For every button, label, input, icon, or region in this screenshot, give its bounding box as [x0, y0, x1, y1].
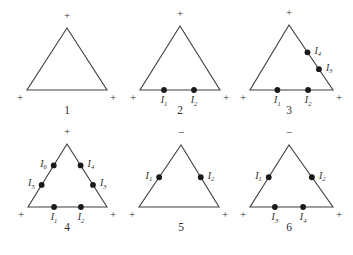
electrode-dot	[274, 87, 280, 93]
triangle-outline	[27, 28, 107, 90]
electrode-label: I3	[99, 177, 107, 190]
vertex-sign-top: +	[177, 7, 183, 19]
electrode-dot	[39, 182, 45, 188]
electrode-label: I6	[39, 158, 47, 171]
electrode-label: I2	[190, 94, 198, 107]
triangle-outline	[140, 26, 220, 90]
triangle-number: 5	[178, 221, 184, 233]
electrode-label: I1	[160, 94, 168, 107]
electrode-label: I3	[325, 62, 333, 75]
vertex-sign-top: +	[64, 9, 70, 21]
electrode-label: I2	[304, 94, 312, 107]
vertex-sign-bottom-left: +	[17, 91, 23, 103]
electrode-label: I4	[299, 211, 307, 224]
electrode-dot	[309, 174, 315, 180]
triangle-2: +++I1I22	[130, 7, 229, 116]
electrode-dot	[300, 204, 306, 210]
electrode-dot	[305, 87, 311, 93]
triangle-number: 3	[286, 104, 292, 116]
electrode-dot	[51, 163, 57, 169]
triangle-number: 4	[64, 221, 70, 233]
electrode-dot	[316, 66, 322, 72]
electrode-dot	[272, 204, 278, 210]
triangle-outline	[28, 144, 107, 207]
triangle-3: +++I1I2I4I33	[240, 6, 342, 116]
triangle-number: 6	[286, 221, 292, 233]
electrode-dot	[198, 174, 204, 180]
electrode-dot	[78, 163, 84, 169]
triangle-4: +++I1I2I4I3I6I54	[18, 125, 116, 233]
electrode-label: I4	[87, 158, 95, 171]
triangle-1: +++1	[17, 9, 116, 116]
electrode-label: I1	[254, 170, 262, 183]
triangle-outline	[250, 25, 333, 90]
electrode-dot	[90, 182, 96, 188]
vertex-sign-bottom-left: +	[130, 91, 136, 103]
electrode-dot	[266, 174, 272, 180]
electrode-dot	[161, 87, 167, 93]
figure-canvas: +++1+++I1I22+++I1I2I4I33+++I1I2I4I3I6I54…	[0, 0, 353, 255]
electrode-label: I2	[77, 211, 85, 224]
electrode-dot	[51, 204, 57, 210]
electrode-label: I2	[207, 170, 215, 183]
vertex-sign-bottom-right: +	[222, 208, 228, 220]
electrode-label: I1	[50, 211, 58, 224]
electrode-dot	[78, 204, 84, 210]
electrode-label: I2	[318, 170, 326, 183]
vertex-sign-bottom-right: +	[110, 208, 116, 220]
vertex-sign-top: +	[286, 6, 292, 18]
triangle-6: −++I1I2I3I46	[240, 126, 342, 233]
vertex-sign-bottom-right: +	[336, 91, 342, 103]
vertex-sign-bottom-right: +	[336, 208, 342, 220]
electrode-dot	[191, 87, 197, 93]
electrode-dot	[305, 49, 311, 55]
vertex-sign-top: −	[286, 126, 292, 138]
vertex-sign-bottom-left: +	[18, 208, 24, 220]
triangle-number: 2	[177, 104, 183, 116]
vertex-sign-top: +	[64, 125, 70, 137]
vertex-sign-bottom-left: +	[240, 91, 246, 103]
triangle-electrode-figure: +++1+++I1I22+++I1I2I4I33+++I1I2I4I3I6I54…	[0, 0, 353, 255]
vertex-sign-bottom-right: +	[223, 91, 229, 103]
triangle-5: −++I1I25	[129, 126, 228, 233]
electrode-label: I4	[313, 45, 321, 58]
vertex-sign-bottom-left: +	[240, 208, 246, 220]
vertex-sign-bottom-left: +	[129, 208, 135, 220]
vertex-sign-top: −	[178, 126, 184, 138]
electrode-label: I3	[271, 211, 279, 224]
electrode-dot	[156, 174, 162, 180]
electrode-label: I1	[273, 94, 281, 107]
vertex-sign-bottom-right: +	[110, 91, 116, 103]
electrode-label: I5	[27, 177, 35, 190]
electrode-label: I1	[145, 170, 153, 183]
triangle-number: 1	[64, 104, 70, 116]
